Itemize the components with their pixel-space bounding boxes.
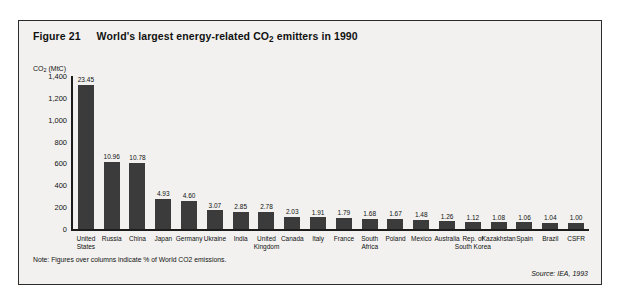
bar-slot: 1.68	[357, 76, 383, 229]
bar-value-label: 10.78	[129, 154, 145, 161]
bar	[491, 222, 507, 229]
bar-slot: 4.93	[150, 76, 176, 229]
y-axis-tick: 0	[33, 225, 67, 234]
bar-slot: 1.08	[486, 76, 512, 229]
bar	[78, 85, 94, 229]
bar-value-label: 1.48	[415, 211, 428, 218]
plot-area: 02004006008001,0001,2001,400 23.4510.961…	[33, 76, 589, 234]
bar	[284, 217, 300, 229]
bar-value-label: 1.91	[312, 209, 325, 216]
bar	[465, 222, 481, 229]
bar	[104, 162, 120, 229]
x-axis-labels: UnitedStatesRussiaChinaJapanGermanyUkrai…	[73, 235, 589, 257]
bar-slot: 1.12	[460, 76, 486, 229]
bar-value-label: 1.06	[518, 214, 531, 221]
bar	[207, 210, 223, 229]
bar-series: 23.4510.9610.784.934.603.072.852.782.031…	[73, 76, 589, 229]
bar-slot: 1.67	[383, 76, 409, 229]
bar-value-label: 2.03	[286, 208, 299, 215]
bar	[439, 221, 455, 229]
bar-value-label: 1.12	[467, 214, 480, 221]
y-axis-tick: 1,000	[33, 115, 67, 124]
bar-value-label: 2.78	[260, 203, 273, 210]
x-axis-label: CSFR	[554, 235, 598, 243]
bar	[516, 222, 532, 229]
bar	[387, 219, 403, 229]
x-axis-label-line: Kingdom	[245, 243, 289, 251]
bar-slot: 10.78	[125, 76, 151, 229]
bar-slot: 4.60	[176, 76, 202, 229]
bar-slot: 1.06	[512, 76, 538, 229]
bar-slot: 2.03	[279, 76, 305, 229]
bar	[413, 220, 429, 229]
bar	[362, 219, 378, 229]
bar-slot: 1.91	[305, 76, 331, 229]
bar-slot: 23.45	[73, 76, 99, 229]
y-axis-tick: 200	[33, 203, 67, 212]
figure-number: Figure 21	[33, 30, 81, 42]
x-axis-line	[71, 229, 589, 231]
bar-slot: 1.00	[563, 76, 589, 229]
bar-value-label: 1.04	[544, 214, 557, 221]
bar-slot: 2.78	[254, 76, 280, 229]
bar-slot: 1.48	[408, 76, 434, 229]
figure-header: Figure 21World's largest energy-related …	[33, 30, 358, 44]
bar	[155, 199, 171, 229]
bar-value-label: 1.67	[389, 210, 402, 217]
y-axis-tick: 600	[33, 159, 67, 168]
bar	[233, 212, 249, 229]
bar-value-label: 2.85	[234, 203, 247, 210]
bar-value-label: 1.00	[570, 214, 583, 221]
y-axis-tick: 400	[33, 181, 67, 190]
bar-slot: 3.07	[202, 76, 228, 229]
bar-value-label: 3.07	[209, 202, 222, 209]
bar-value-label: 1.08	[492, 214, 505, 221]
bar-slot: 2.85	[228, 76, 254, 229]
bar	[310, 217, 326, 229]
bar-value-label: 4.93	[157, 190, 170, 197]
x-axis-label-line: Africa	[348, 243, 392, 251]
bar	[129, 163, 145, 229]
x-axis-label-line: States	[64, 243, 108, 251]
y-axis-tick: 1,400	[33, 72, 67, 81]
x-axis-label-line: CSFR	[554, 235, 598, 243]
figure-note: Note: Figures over columns indicate % of…	[33, 256, 226, 263]
bar	[542, 223, 558, 229]
figure-title: World's largest energy-related CO2 emitt…	[97, 30, 358, 42]
bar	[336, 218, 352, 229]
y-axis-tick: 800	[33, 137, 67, 146]
bar-value-label: 4.60	[183, 192, 196, 199]
bar-value-label: 23.45	[78, 76, 94, 83]
bar-slot: 1.04	[537, 76, 563, 229]
bar-value-label: 1.79	[338, 209, 351, 216]
x-axis-label-line: South Korea	[451, 243, 495, 251]
bar-slot: 1.26	[434, 76, 460, 229]
bar-value-label: 1.26	[441, 213, 454, 220]
bar	[258, 212, 274, 229]
bar	[181, 201, 197, 229]
bar-value-label: 1.68	[363, 210, 376, 217]
figure-frame: Figure 21World's largest energy-related …	[18, 20, 602, 285]
bar-slot: 1.79	[331, 76, 357, 229]
bar-value-label: 10.96	[104, 153, 120, 160]
bar	[568, 223, 584, 229]
figure-source: Source: IEA, 1993	[531, 270, 588, 277]
bar-slot: 10.96	[99, 76, 125, 229]
y-axis-tick: 1,200	[33, 93, 67, 102]
